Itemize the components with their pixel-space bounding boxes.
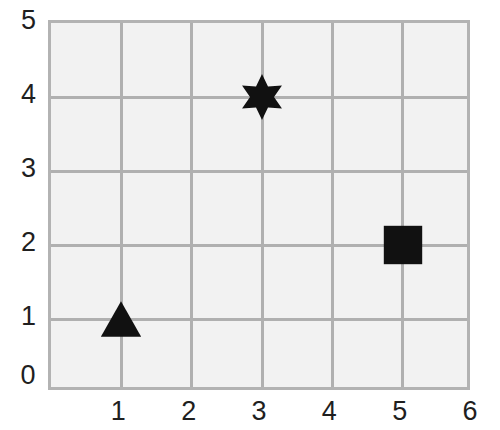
x-tick-label: 2 [181, 398, 196, 425]
y-tick-label: 3 [21, 155, 36, 182]
y-tick-label: 5 [21, 7, 36, 34]
origin-label: 0 [20, 362, 35, 389]
square-marker [383, 225, 423, 265]
x-tick-label: 5 [392, 398, 407, 425]
gridline-horizontal [51, 170, 467, 173]
x-tick-label: 6 [462, 398, 477, 425]
x-tick-label: 1 [111, 398, 126, 425]
triangle-marker [100, 301, 142, 338]
plot-area [48, 20, 470, 390]
y-tick-label: 1 [21, 303, 36, 330]
x-tick-label: 4 [322, 398, 337, 425]
star-marker [238, 73, 286, 121]
gridline-vertical [401, 23, 404, 387]
gridline-vertical [331, 23, 334, 387]
scatter-chart: 0123456 12345 [0, 0, 500, 430]
x-tick-label: 3 [251, 398, 266, 425]
gridline-vertical [190, 23, 193, 387]
y-tick-label: 2 [21, 229, 36, 256]
plot-inner [51, 23, 467, 387]
y-tick-label: 4 [21, 81, 36, 108]
